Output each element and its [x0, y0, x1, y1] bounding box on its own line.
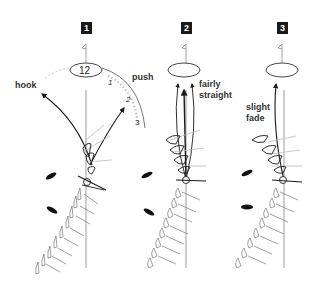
fairly-straight-label-line1: fairly: [199, 79, 221, 89]
clock-mark-1: 1: [108, 78, 112, 87]
panel-1-artwork: [36, 44, 145, 274]
panel-3-artwork: [236, 44, 302, 268]
golf-swing-diagram: 1 2 3 12 1 2 3 hook push fairly straight…: [0, 0, 315, 292]
clock-mark-2: 2: [126, 95, 130, 104]
panel-number-badge-3: 3: [277, 22, 288, 34]
push-label: push: [132, 72, 154, 82]
clock-mark-3: 3: [135, 118, 139, 127]
diagram-artwork: [0, 0, 315, 292]
panel-number-badge-2: 2: [181, 22, 192, 34]
clock-label-12: 12: [79, 65, 90, 76]
hook-label: hook: [15, 80, 37, 90]
slight-fade-label-line2: fade: [246, 113, 265, 123]
panel-number-badge-1: 1: [81, 22, 92, 34]
fairly-straight-label-line2: straight: [199, 90, 232, 100]
slight-fade-label-line1: slight: [246, 102, 270, 112]
